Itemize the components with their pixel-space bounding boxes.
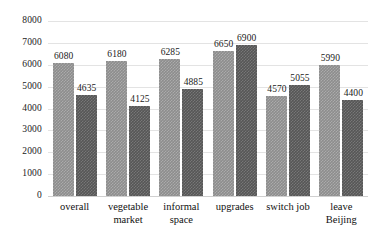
bar-value-label: 5055 <box>283 73 317 83</box>
y-axis-tick-label: 6000 <box>6 60 42 70</box>
bar[interactable] <box>289 85 310 196</box>
y-axis-tick-label: 3000 <box>6 125 42 135</box>
y-axis-tick-label: 4000 <box>6 104 42 114</box>
bar-group: 45705055 <box>266 21 310 196</box>
bar[interactable] <box>182 89 203 196</box>
bar-chart: 6080463561804125628548856650690045705055… <box>0 0 378 236</box>
y-axis-tick-label: 2000 <box>6 147 42 157</box>
bar-value-label: 6285 <box>153 47 187 57</box>
x-axis-category-label: leave Beijing <box>305 200 377 226</box>
y-axis-tick-label: 7000 <box>6 38 42 48</box>
bar-value-label: 4125 <box>123 94 157 104</box>
y-axis-tick-label: 5000 <box>6 82 42 92</box>
bar-value-label: 6080 <box>47 51 81 61</box>
y-axis-tick-label: 1000 <box>6 169 42 179</box>
bar-group: 66506900 <box>213 21 257 196</box>
bar-value-label: 4635 <box>70 83 104 93</box>
bar[interactable] <box>236 45 257 196</box>
bar-value-label: 6180 <box>100 49 134 59</box>
bar-group: 62854885 <box>159 21 203 196</box>
bar[interactable] <box>106 61 127 196</box>
bar-value-label: 4400 <box>336 88 370 98</box>
bar-value-label: 6900 <box>230 33 264 43</box>
bar[interactable] <box>342 100 363 196</box>
bar[interactable] <box>129 106 150 196</box>
bar-value-label: 5990 <box>313 53 347 63</box>
bar[interactable] <box>266 96 287 196</box>
bar[interactable] <box>213 51 234 196</box>
plot-area: 6080463561804125628548856650690045705055… <box>48 21 368 196</box>
bar-value-label: 4885 <box>176 77 210 87</box>
bar-group: 59904400 <box>319 21 363 196</box>
y-axis-tick-label: 0 <box>6 191 42 201</box>
bar[interactable] <box>319 65 340 196</box>
bar[interactable] <box>76 95 97 196</box>
bar-group: 61804125 <box>106 21 150 196</box>
bar-group: 60804635 <box>53 21 97 196</box>
y-axis-tick-label: 8000 <box>6 16 42 26</box>
gridline <box>48 196 368 197</box>
